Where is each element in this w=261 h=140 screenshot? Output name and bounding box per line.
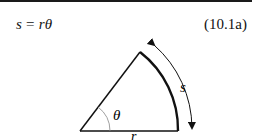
angle-label: θ xyxy=(113,107,121,123)
radius-label: r xyxy=(131,129,137,140)
double-arrow-icon xyxy=(154,45,192,128)
arc-label: s xyxy=(180,79,186,95)
slanted-radius-line xyxy=(80,52,140,131)
sector-diagram: θ r s xyxy=(0,0,261,140)
angle-arc xyxy=(98,107,110,131)
arc-s xyxy=(140,52,178,131)
